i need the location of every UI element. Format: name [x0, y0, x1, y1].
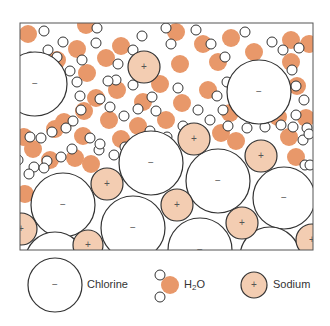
water-hydrogen — [65, 66, 75, 76]
water-hydrogen — [223, 121, 233, 131]
sodium-ion: + — [296, 224, 328, 256]
chlorine-ion-charge-symbol: − — [32, 78, 38, 89]
legend-sodium-icon-charge-symbol: + — [251, 279, 257, 290]
water-hydrogen — [39, 163, 49, 173]
water-hydrogen — [67, 144, 77, 154]
water-hydrogen — [291, 81, 301, 91]
water-hydrogen — [193, 105, 203, 115]
water-hydrogen — [212, 91, 222, 101]
water-hydrogen — [61, 123, 71, 133]
sodium-ion-charge-symbol: + — [191, 133, 197, 144]
water-hydrogen — [77, 55, 87, 65]
water-hydrogen — [76, 105, 86, 115]
sodium-ion-charge-symbol: + — [104, 178, 110, 189]
water-hydrogen — [72, 77, 82, 87]
water-hydrogen — [161, 23, 171, 33]
water-hydrogen — [191, 25, 201, 35]
sodium-ion: + — [226, 207, 258, 239]
chlorine-ion: − — [119, 131, 183, 195]
water-hydrogen — [240, 27, 250, 37]
water-hydrogen — [92, 23, 102, 33]
chlorine-ion-charge-symbol: − — [60, 199, 66, 210]
sodium-ion-charge-symbol: + — [239, 217, 245, 228]
water-hydrogen — [276, 120, 286, 130]
legend-sodium-label: Sodium — [273, 278, 310, 290]
water-hydrogen — [25, 132, 35, 142]
legend-sodium-icon: + — [241, 272, 267, 298]
water-hydrogen — [242, 123, 252, 133]
legend-chlorine-label: Chlorine — [87, 278, 128, 290]
water-hydrogen — [137, 31, 147, 41]
water-oxygen — [112, 37, 130, 55]
sodium-ion: + — [128, 51, 160, 83]
water-hydrogen — [24, 169, 34, 179]
sodium-ion: + — [245, 140, 277, 172]
legend-shapes: −+ — [28, 258, 267, 312]
chlorine-ion: − — [186, 149, 250, 213]
sodium-ion: + — [161, 189, 193, 221]
water-hydrogen — [85, 133, 95, 143]
water-oxygen — [77, 16, 95, 34]
water-oxygen — [97, 49, 115, 67]
chlorine-ion-charge-symbol: − — [215, 175, 221, 186]
water-hydrogen — [291, 110, 301, 120]
water-hydrogen — [39, 26, 49, 36]
legend-water-icon — [155, 270, 179, 302]
water-hydrogen — [278, 45, 288, 55]
water-oxygen — [222, 29, 240, 47]
chlorine-ion: − — [227, 60, 291, 124]
sodium-ion-charge-symbol: + — [309, 234, 315, 245]
sodium-ion: + — [5, 213, 37, 245]
water-oxygen — [173, 94, 191, 112]
water-hydrogen — [58, 37, 68, 47]
water-hydrogen — [13, 155, 23, 165]
water-hydrogen — [95, 94, 105, 104]
water-hydrogen — [105, 102, 115, 112]
legend-chlorine-icon: − — [28, 258, 82, 312]
water-hydrogen — [119, 111, 129, 121]
chlorine-ion: − — [31, 173, 95, 237]
water-hydrogen — [173, 83, 183, 93]
sodium-ion-charge-symbol: + — [258, 150, 264, 161]
water-hydrogen — [267, 37, 277, 47]
water-hydrogen — [218, 105, 228, 115]
water-hydrogen — [91, 38, 101, 48]
sodium-ion-charge-symbol: + — [174, 199, 180, 210]
sodium-ion-charge-symbol: + — [18, 223, 24, 234]
sodium-ion: + — [73, 230, 103, 260]
legend-water-h: H — [184, 278, 192, 290]
sodium-ion: + — [91, 168, 123, 200]
water-hydrogen — [299, 95, 309, 105]
chlorine-ion-charge-symbol: − — [281, 192, 287, 203]
chlorine-ion-charge-symbol: − — [267, 251, 273, 262]
water-hydrogen — [113, 59, 123, 69]
legend-chlorine-icon-charge-symbol: − — [52, 279, 58, 290]
water-hydrogen — [220, 52, 230, 62]
water-oxygen — [82, 155, 100, 173]
water-hydrogen — [288, 122, 298, 132]
legend-water-label: H2O — [184, 278, 205, 292]
water-hydrogen — [205, 115, 215, 125]
chlorine-ion-charge-symbol: − — [148, 157, 154, 168]
water-hydrogen — [133, 104, 143, 114]
water-hydrogen — [75, 91, 85, 101]
water-oxygen — [19, 25, 37, 43]
water-hydrogen — [151, 106, 161, 116]
water-hydrogen — [95, 139, 105, 149]
water-hydrogen — [56, 152, 66, 162]
sodium-ion-charge-symbol: + — [141, 61, 147, 72]
water-hydrogen — [103, 76, 113, 86]
water-hydrogen — [206, 39, 216, 49]
chlorine-ion-charge-symbol: − — [130, 222, 136, 233]
legend-water-o: O — [196, 278, 205, 290]
water-oxygen — [100, 111, 118, 129]
water-oxygen — [245, 43, 263, 61]
water-oxygen — [227, 132, 245, 150]
chlorine-ion: − — [3, 52, 67, 116]
sodium-ion: + — [178, 123, 210, 155]
water-hydrogen — [147, 92, 157, 102]
water-hydrogen — [294, 43, 304, 53]
water-hydrogen — [166, 39, 176, 49]
chlorine-ion: − — [253, 167, 315, 229]
water-hydrogen — [47, 127, 57, 137]
